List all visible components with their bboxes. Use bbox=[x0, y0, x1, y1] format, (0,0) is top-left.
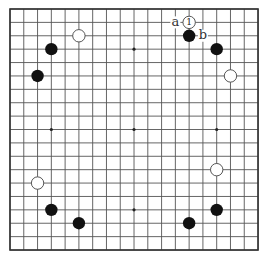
black-stone bbox=[73, 217, 85, 229]
svg-text:a: a bbox=[171, 14, 179, 29]
black-stone-icon bbox=[183, 30, 195, 42]
white-stone bbox=[224, 70, 236, 82]
black-stone-icon bbox=[211, 204, 223, 216]
black-stone bbox=[183, 217, 195, 229]
white-stone-icon bbox=[31, 177, 43, 189]
white-stone bbox=[211, 163, 223, 175]
star-point bbox=[215, 128, 218, 131]
white-stone-icon bbox=[211, 163, 223, 175]
go-board: ab 1 bbox=[0, 0, 263, 255]
black-stone bbox=[45, 43, 57, 55]
star-point bbox=[132, 208, 135, 211]
svg-text:b: b bbox=[199, 27, 207, 42]
black-stone bbox=[211, 43, 223, 55]
white-stone-icon bbox=[73, 30, 85, 42]
black-stone bbox=[183, 30, 195, 42]
white-stone bbox=[73, 30, 85, 42]
move-number: 1 bbox=[186, 17, 192, 27]
go-board-diagram: ab 1 bbox=[0, 0, 263, 255]
white-stone: 1 bbox=[183, 16, 195, 28]
star-point bbox=[50, 128, 53, 131]
point-label-a: a bbox=[170, 14, 180, 29]
white-stone bbox=[31, 177, 43, 189]
white-stone-icon bbox=[224, 70, 236, 82]
black-stone bbox=[45, 204, 57, 216]
black-stone bbox=[31, 70, 43, 82]
black-stone-icon bbox=[73, 217, 85, 229]
black-stone-icon bbox=[45, 43, 57, 55]
black-stone-icon bbox=[211, 43, 223, 55]
black-stone-icon bbox=[183, 217, 195, 229]
black-stone bbox=[211, 204, 223, 216]
black-stone-icon bbox=[45, 204, 57, 216]
point-label-b: b bbox=[198, 27, 208, 42]
black-stone-icon bbox=[31, 70, 43, 82]
star-point bbox=[132, 48, 135, 51]
star-point bbox=[132, 128, 135, 131]
